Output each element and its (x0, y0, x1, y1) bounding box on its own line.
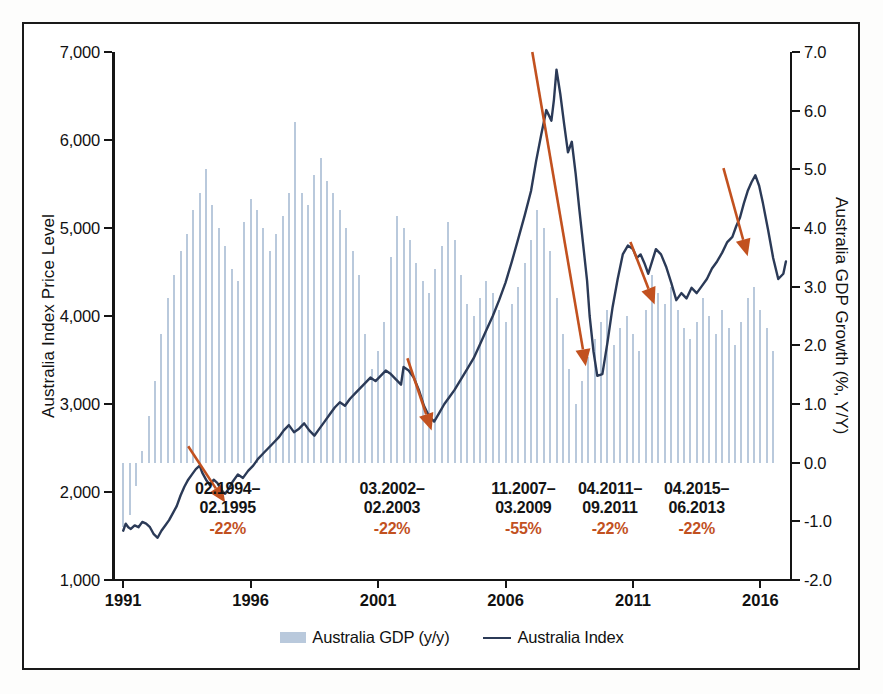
drawdown-period-start: 04.2011– (578, 480, 642, 497)
drawdown-period-end: 02.1995 (199, 499, 255, 516)
y-axis-left-title: Australia Index Price Level (36, 52, 62, 580)
y-axis-left-tick (104, 315, 112, 317)
drawdown-label: 02.1994–02.1995-22% (195, 479, 260, 539)
y-axis-right-tick (792, 51, 800, 53)
y-axis-left-tick-label: 3,000 (60, 395, 100, 414)
y-axis-left-tick (104, 579, 112, 581)
legend-label: Australia GDP (y/y) (312, 628, 449, 647)
plot-area: 1,0002,0003,0004,0005,0006,0007,000 -2.0… (113, 52, 791, 580)
x-axis-tick (505, 580, 507, 588)
legend-item[interactable]: Australia Index (483, 628, 623, 647)
y-axis-left-tick-label: 6,000 (60, 131, 100, 150)
drawdown-pct: -22% (360, 519, 425, 539)
drawdown-annotations: 02.1994–02.1995-22%03.2002–02.2003-22%11… (113, 52, 791, 580)
chart-figure: Australia Index Price Level Australia GD… (0, 0, 883, 694)
y-axis-left-tick (104, 491, 112, 493)
drawdown-period-end: 03.2009 (495, 499, 551, 516)
x-axis-tick-label: 2016 (742, 591, 779, 610)
legend-line-swatch-icon (483, 637, 511, 639)
y-axis-left-tick (104, 403, 112, 405)
y-axis-left-tick-label: 1,000 (60, 571, 100, 590)
legend-item[interactable]: Australia GDP (y/y) (280, 628, 449, 647)
y-axis-right-tick (792, 110, 800, 112)
drawdown-period-start: 02.1994– (195, 480, 260, 497)
y-axis-left-title-text: Australia Index Price Level (39, 214, 59, 418)
y-axis-right-tick (792, 168, 800, 170)
x-axis-tick (759, 580, 761, 588)
y-axis-right-tick (792, 462, 800, 464)
drawdown-period-start: 04.2015– (664, 480, 729, 497)
x-axis-tick-label: 2001 (360, 591, 397, 610)
drawdown-period-start: 03.2002– (360, 480, 425, 497)
drawdown-pct: -22% (664, 519, 729, 539)
y-axis-right-tick-label: 4.0 (804, 219, 826, 238)
y-axis-right-tick-label: 7.0 (804, 43, 826, 62)
drawdown-label: 03.2002–02.2003-22% (360, 479, 425, 539)
x-axis-tick-label: 2011 (615, 591, 651, 610)
legend-label: Australia Index (517, 628, 623, 647)
drawdown-label: 04.2011–09.2011-22% (578, 479, 642, 539)
drawdown-period-end: 06.2013 (668, 499, 724, 516)
y-axis-left-tick-label: 4,000 (60, 307, 100, 326)
y-axis-right-tick-label: 5.0 (804, 160, 826, 179)
chart-legend: Australia GDP (y/y)Australia Index (113, 628, 791, 647)
drawdown-pct: -22% (578, 519, 642, 539)
y-axis-left-tick (104, 139, 112, 141)
x-axis-tick (632, 580, 634, 588)
y-axis-right-tick-label: 3.0 (804, 277, 826, 296)
x-axis-tick-label: 1996 (232, 591, 269, 610)
x-axis-tick-label: 1991 (105, 591, 142, 610)
y-axis-right-tick (792, 227, 800, 229)
drawdown-label: 04.2015–06.2013-22% (664, 479, 729, 539)
y-axis-left-tick (104, 51, 112, 53)
y-axis-right-tick (792, 520, 800, 522)
drawdown-pct: -22% (195, 519, 260, 539)
drawdown-period-end: 02.2003 (364, 499, 420, 516)
x-axis-tick (122, 580, 124, 588)
y-axis-left-tick-label: 2,000 (60, 483, 100, 502)
y-axis-left-tick-label: 5,000 (60, 219, 100, 238)
x-axis-tick (250, 580, 252, 588)
y-axis-right-tick-label: -1.0 (804, 512, 832, 531)
y-axis-right-title: Australia GDP Growth (%, Y/Y) (828, 52, 854, 580)
y-axis-right-tick-label: 6.0 (804, 101, 826, 120)
y-axis-right-tick-label: 1.0 (804, 395, 826, 414)
y-axis-right-tick-label: 0.0 (804, 453, 826, 472)
drawdown-period-end: 09.2011 (582, 499, 638, 516)
drawdown-pct: -55% (491, 519, 555, 539)
y-axis-right-tick (792, 344, 800, 346)
y-axis-right-tick (792, 403, 800, 405)
drawdown-period-start: 11.2007– (491, 480, 555, 497)
legend-bar-swatch-icon (280, 632, 306, 643)
y-axis-right-title-text: Australia GDP Growth (%, Y/Y) (831, 197, 851, 435)
drawdown-label: 11.2007–03.2009-55% (491, 479, 555, 539)
x-axis-tick (377, 580, 379, 588)
y-axis-right-tick (792, 579, 800, 581)
y-axis-left-tick (104, 227, 112, 229)
x-axis-tick-label: 2006 (487, 591, 524, 610)
y-axis-left-tick-label: 7,000 (60, 43, 100, 62)
y-axis-right-tick-label: 2.0 (804, 336, 826, 355)
y-axis-right-tick-label: -2.0 (804, 571, 832, 590)
y-axis-right-tick (792, 286, 800, 288)
